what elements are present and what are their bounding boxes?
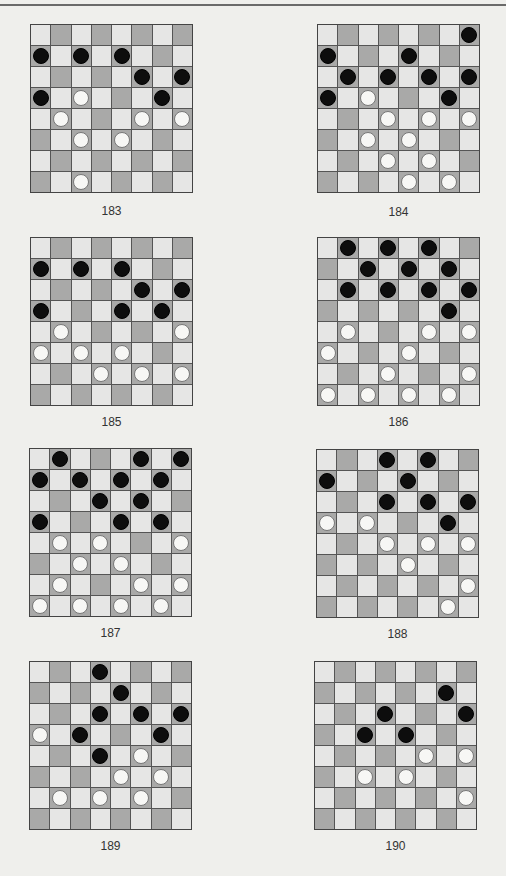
- black-checker-icon: [340, 282, 356, 298]
- board-square: [51, 238, 70, 258]
- board-square: [92, 46, 111, 66]
- board-square: [132, 280, 151, 300]
- board-square: [51, 109, 70, 129]
- black-checker-icon: [33, 90, 49, 106]
- board-square: [91, 491, 110, 511]
- board-square: [359, 67, 378, 87]
- board-square: [359, 172, 378, 192]
- board-square: [153, 88, 172, 108]
- board-square: [51, 280, 70, 300]
- board-square: [31, 301, 50, 321]
- white-checker-icon: [360, 387, 376, 403]
- black-checker-icon: [154, 303, 170, 319]
- board-square: [172, 575, 191, 595]
- board-square: [31, 46, 50, 66]
- board-square: [132, 130, 151, 150]
- board-square: [153, 280, 172, 300]
- board-square: [457, 809, 476, 829]
- board-square: [338, 172, 357, 192]
- board-square: [111, 533, 130, 553]
- board-square: [437, 725, 456, 745]
- board-square: [317, 450, 336, 470]
- board-square: [416, 725, 435, 745]
- board-square: [398, 513, 417, 533]
- board-square: [396, 809, 415, 829]
- board-square: [459, 513, 478, 533]
- board-square: [337, 534, 356, 554]
- black-checker-icon: [134, 69, 150, 85]
- board-square: [318, 280, 337, 300]
- board-square: [440, 172, 459, 192]
- checkers-board: [314, 661, 477, 830]
- white-checker-icon: [401, 132, 417, 148]
- board-square: [338, 385, 357, 405]
- board-square: [91, 449, 110, 469]
- black-checker-icon: [421, 69, 437, 85]
- board-square: [31, 259, 50, 279]
- board-square: [172, 746, 191, 766]
- board-square: [111, 512, 130, 532]
- board-square: [315, 788, 334, 808]
- white-checker-icon: [320, 387, 336, 403]
- board-square: [379, 259, 398, 279]
- black-checker-icon: [380, 282, 396, 298]
- board-square: [359, 130, 378, 150]
- board-square: [172, 683, 191, 703]
- board-square: [31, 67, 50, 87]
- board-square: [440, 280, 459, 300]
- board-square: [51, 130, 70, 150]
- board-square: [30, 704, 49, 724]
- white-checker-icon: [340, 324, 356, 340]
- board-square: [399, 109, 418, 129]
- board-square: [31, 25, 50, 45]
- board-square: [152, 512, 171, 532]
- board-square: [419, 238, 438, 258]
- board-square: [440, 343, 459, 363]
- board-square: [51, 385, 70, 405]
- board-square: [91, 470, 110, 490]
- board-square: [399, 172, 418, 192]
- puzzle-number: 186: [317, 415, 480, 429]
- board-square: [152, 788, 171, 808]
- board-square: [112, 322, 131, 342]
- board-square: [396, 662, 415, 682]
- board-square: [111, 704, 130, 724]
- board-square: [379, 364, 398, 384]
- board-square: [338, 88, 357, 108]
- white-checker-icon: [133, 577, 149, 593]
- board-square: [379, 322, 398, 342]
- board-square: [318, 172, 337, 192]
- board-square: [152, 725, 171, 745]
- board-square: [338, 280, 357, 300]
- board-square: [396, 725, 415, 745]
- black-checker-icon: [72, 472, 88, 488]
- puzzle-186: 186: [317, 237, 480, 406]
- board-square: [359, 343, 378, 363]
- board-square: [172, 491, 191, 511]
- board-square: [459, 450, 478, 470]
- black-checker-icon: [32, 472, 48, 488]
- board-square: [72, 25, 91, 45]
- board-square: [30, 662, 49, 682]
- white-checker-icon: [113, 769, 129, 785]
- white-checker-icon: [113, 598, 129, 614]
- board-square: [112, 343, 131, 363]
- black-checker-icon: [440, 515, 456, 531]
- board-square: [416, 809, 435, 829]
- black-checker-icon: [73, 48, 89, 64]
- board-square: [379, 385, 398, 405]
- board-square: [440, 109, 459, 129]
- checkers-board: [30, 24, 193, 193]
- board-square: [315, 767, 334, 787]
- board-square: [315, 809, 334, 829]
- white-checker-icon: [53, 324, 69, 340]
- black-checker-icon: [460, 494, 476, 510]
- board-square: [439, 513, 458, 533]
- board-square: [315, 704, 334, 724]
- black-checker-icon: [92, 706, 108, 722]
- black-checker-icon: [461, 69, 477, 85]
- board-square: [111, 746, 130, 766]
- puzzle-number: 185: [30, 415, 193, 429]
- white-checker-icon: [72, 598, 88, 614]
- board-square: [172, 512, 191, 532]
